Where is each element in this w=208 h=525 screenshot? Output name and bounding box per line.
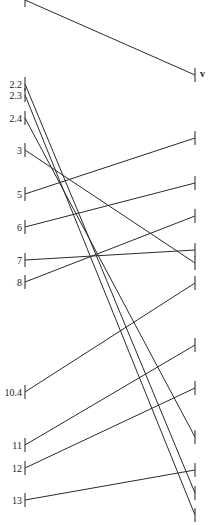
connection-line (25, 183, 195, 227)
left-tick-label: 12 (12, 463, 22, 474)
connection-line (25, 95, 195, 515)
left-tick-label: 7 (17, 255, 22, 266)
connection-lines (25, 0, 195, 515)
connection-line (25, 0, 195, 75)
connection-line (25, 216, 195, 282)
marker-label: v (200, 68, 205, 79)
left-tick-label: 10.4 (5, 387, 23, 398)
left-tick-label: 11 (12, 440, 22, 451)
connection-line (25, 283, 195, 392)
tanglegram-diagram: 2.22.32.43567810.4111213 v (0, 0, 208, 525)
connection-line (25, 388, 195, 468)
left-tick-label: 2.4 (10, 113, 23, 124)
connection-line (25, 150, 195, 263)
left-tick-label: 3 (17, 145, 22, 156)
connection-line (25, 470, 195, 500)
connection-line (25, 84, 195, 493)
connection-line (25, 345, 195, 445)
left-tick-label: 2.3 (10, 90, 23, 101)
left-tick-label: 8 (17, 277, 22, 288)
left-tick-column: 2.22.32.43567810.4111213 (5, 0, 26, 507)
left-tick-label: 6 (17, 222, 22, 233)
left-tick-label: 2.2 (10, 79, 23, 90)
connection-line (25, 250, 195, 260)
left-tick-label: 5 (17, 189, 22, 200)
left-tick-label: 13 (12, 495, 22, 506)
